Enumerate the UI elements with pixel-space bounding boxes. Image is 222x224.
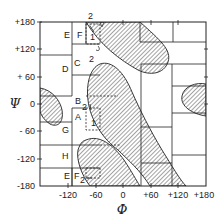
region-label-c: C [74,58,81,68]
region-label-h: H [62,151,69,161]
y-tick-m180: -180 [17,181,35,191]
region-label-2-mid: 2 [82,102,87,112]
x-tick-p120: +120 [168,190,188,200]
region-label-a: A [75,112,81,122]
region-label-1-mid: 1 [91,118,96,128]
x-tick-0: 0 [120,190,125,200]
x-tick-m120: -120 [59,190,77,200]
region-label-2-top-b: 2 [89,54,94,64]
x-tick-p60: +60 [143,190,158,200]
y-tick-0: 0 [30,99,35,109]
ramachandran-diagram: E F 1 2 2 C D B 2 A 1 G H E F 2 +180 +12… [0,0,222,224]
y-tick-m120: -120 [17,154,35,164]
region-label-1-top: 1 [90,32,95,42]
y-tick-p60: + 60 [17,72,35,82]
region-label-f-top: F [77,30,83,40]
region-label-2-top-a: 2 [88,11,93,21]
x-tick-p180: +180 [194,190,214,200]
y-tick-p180: +180 [15,17,35,27]
x-axis-label: Φ [117,202,128,217]
region-label-b: B [75,96,81,106]
y-axis-label: Ψ [9,96,21,111]
hatched-region-right [182,84,206,117]
region-label-e-bot: E [64,171,70,181]
region-label-d: D [62,64,69,74]
hatched-regions [40,22,206,186]
x-tick-m60: -60 [89,190,102,200]
region-label-e-top: E [64,30,70,40]
hatched-region-left [40,88,62,125]
y-tick-p120: +120 [15,44,35,54]
region-label-2-bot: 2 [80,175,85,185]
y-tick-m60: - 60 [19,126,35,136]
region-label-g: G [62,125,69,135]
